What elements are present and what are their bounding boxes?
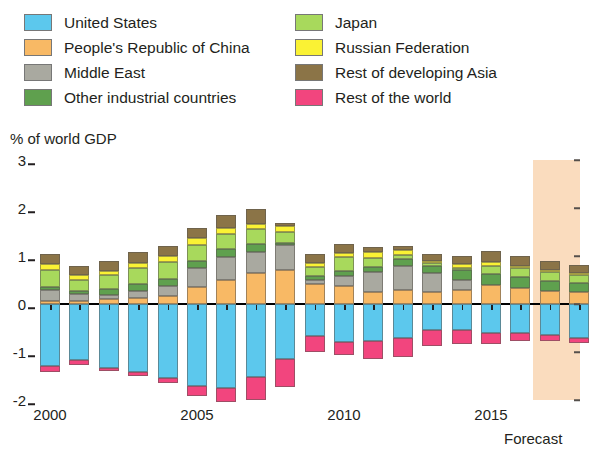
bar-segment [40, 290, 60, 301]
bar-segment [158, 378, 178, 383]
y-tick-mark [28, 403, 35, 405]
bar-segment [216, 280, 236, 304]
bar-2005[interactable] [187, 160, 207, 400]
bar-segment [393, 290, 413, 304]
bar-segment [69, 360, 89, 365]
bar-segment [246, 304, 266, 377]
bar-segment [158, 246, 178, 255]
y-tick-mark [28, 163, 35, 165]
y-tick-mark [28, 355, 35, 357]
bar-segment [393, 259, 413, 265]
bar-segment [569, 275, 589, 283]
bar-2011[interactable] [363, 160, 383, 400]
bar-2017[interactable] [540, 160, 560, 400]
bar-segment [569, 292, 589, 304]
bar-2003[interactable] [128, 160, 148, 400]
bar-2008[interactable] [275, 160, 295, 400]
bar-2015[interactable] [481, 160, 501, 400]
x-tick-mark [520, 305, 522, 310]
x-tick-label-2010: 2010 [327, 406, 360, 423]
bar-segment [158, 256, 178, 262]
x-tick-mark [491, 305, 493, 310]
bar-segment [69, 291, 89, 294]
bar-2006[interactable] [216, 160, 236, 400]
bar-2001[interactable] [69, 160, 89, 400]
bar-segment [99, 271, 119, 275]
bar-segment [305, 263, 325, 267]
bar-segment [275, 226, 295, 232]
bar-segment [305, 280, 325, 284]
bar-segment [422, 292, 442, 304]
y-tick-mark-right [574, 399, 580, 401]
bar-2002[interactable] [99, 160, 119, 400]
bar-segment [363, 258, 383, 267]
bar-2010[interactable] [334, 160, 354, 400]
y-tick-mark-right [574, 255, 580, 257]
bar-segment [393, 255, 413, 259]
bar-segment [305, 267, 325, 277]
bar-segment [99, 368, 119, 371]
bar-segment [452, 268, 472, 270]
bar-segment [275, 245, 295, 270]
bar-2014[interactable] [452, 160, 472, 400]
x-tick-mark [79, 305, 81, 310]
bar-segment [569, 273, 589, 275]
bar-segment [481, 251, 501, 262]
bar-2013[interactable] [422, 160, 442, 400]
bar-segment [216, 228, 236, 235]
bar-segment [363, 341, 383, 359]
x-tick-mark [344, 305, 346, 310]
bar-2012[interactable] [393, 160, 413, 400]
bar-segment [393, 266, 413, 290]
bar-segment [216, 257, 236, 280]
bar-segment [363, 292, 383, 304]
bar-segment [569, 265, 589, 274]
bar-2018[interactable] [569, 160, 589, 400]
bar-segment [275, 223, 295, 226]
bar-segment [40, 287, 60, 290]
bar-segment [334, 342, 354, 355]
bar-segment [334, 286, 354, 304]
x-tick-label-2005: 2005 [180, 406, 213, 423]
bar-segment [128, 284, 148, 291]
bar-segment [216, 234, 236, 249]
bar-segment [99, 261, 119, 271]
bar-segment [40, 270, 60, 287]
bar-segment [158, 296, 178, 304]
bar-segment [40, 254, 60, 264]
bar-segment [187, 238, 207, 245]
x-tick-mark [432, 305, 434, 310]
bar-segment [305, 284, 325, 304]
bar-2007[interactable] [246, 160, 266, 400]
bar-segment [99, 299, 119, 304]
bar-segment [334, 244, 354, 252]
bar-segment [481, 262, 501, 266]
bar-segment [69, 280, 89, 291]
bar-2000[interactable] [40, 160, 60, 400]
bar-segment [510, 333, 530, 342]
bar-segment [393, 246, 413, 250]
bar-segment [69, 266, 89, 275]
bar-segment [187, 386, 207, 397]
y-tick-label-neg1: -1 [13, 344, 26, 361]
bar-segment [334, 253, 354, 258]
bar-segment [393, 338, 413, 357]
bar-segment [158, 304, 178, 378]
bar-segment [187, 287, 207, 304]
bar-segment [363, 272, 383, 293]
bar-segment [158, 286, 178, 297]
bar-segment [128, 291, 148, 298]
bar-2016[interactable] [510, 160, 530, 400]
bar-segment [275, 359, 295, 387]
bar-segment [40, 366, 60, 372]
bar-segment [305, 336, 325, 351]
bar-segment [510, 268, 530, 277]
bar-2009[interactable] [305, 160, 325, 400]
bar-segment [187, 228, 207, 239]
bar-segment [246, 224, 266, 229]
bar-2004[interactable] [158, 160, 178, 400]
bar-segment [540, 270, 560, 272]
y-tick-mark [28, 259, 35, 261]
bar-segment [216, 388, 236, 402]
y-tick-label-neg2: -2 [13, 392, 26, 409]
